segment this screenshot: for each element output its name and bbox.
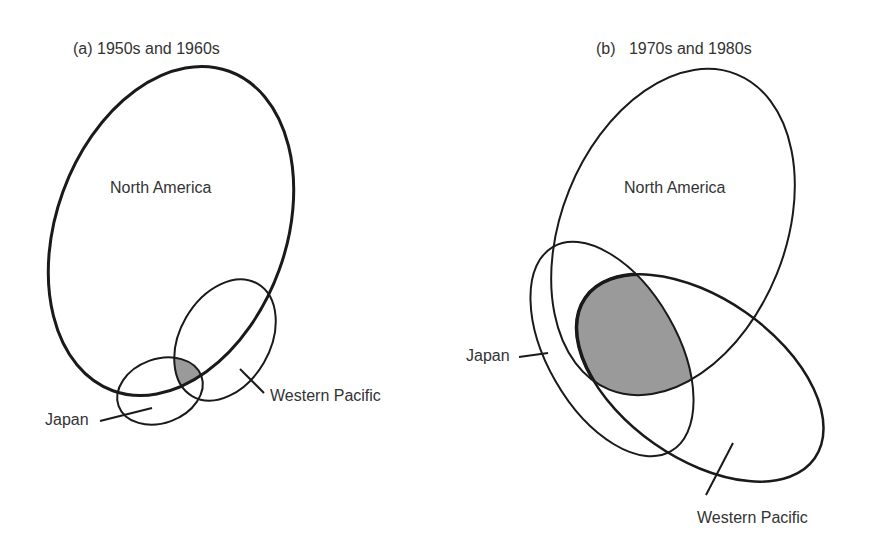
panel-b-western-pacific-ellipse bbox=[539, 232, 860, 524]
panel-a: (a) 1950s and 1960s North America Japan … bbox=[5, 32, 381, 436]
panel-a-north-america-label: North America bbox=[110, 179, 211, 196]
panel-a-title: (a) 1950s and 1960s bbox=[73, 40, 220, 57]
panel-a-japan-label: Japan bbox=[45, 411, 89, 428]
panel-a-western-pacific-leader-line bbox=[240, 369, 264, 393]
panel-b-western-pacific-label: Western Pacific bbox=[697, 509, 808, 526]
panel-b-overlap-outline-wp bbox=[539, 232, 860, 524]
panel-b-north-america-label: North America bbox=[624, 179, 725, 196]
panel-a-japan-leader-line bbox=[100, 408, 152, 421]
panel-a-japan-ellipse bbox=[108, 346, 213, 436]
venn-diagram-figure: (a) 1950s and 1960s North America Japan … bbox=[0, 0, 875, 543]
panel-b-title: (b) 1970s and 1980s bbox=[596, 40, 752, 57]
panel-b-overlap-region bbox=[539, 232, 860, 524]
panel-b-japan-label: Japan bbox=[466, 347, 510, 364]
panel-a-north-america-ellipse bbox=[5, 32, 337, 430]
panel-b-western-pacific-leader-line bbox=[706, 443, 733, 495]
panel-b: (b) 1970s and 1980s North America Japan … bbox=[466, 32, 861, 526]
panel-a-western-pacific-label: Western Pacific bbox=[270, 387, 381, 404]
